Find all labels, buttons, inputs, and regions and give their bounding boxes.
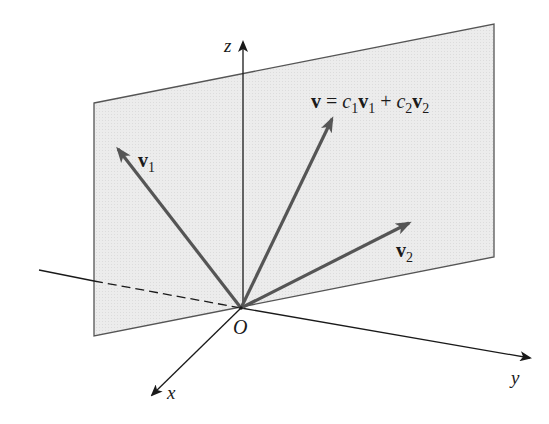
v1-symbol: v xyxy=(138,149,148,171)
v2-term-symbol: v xyxy=(412,90,422,112)
v1-label: v1 xyxy=(138,150,155,170)
c1-symbol: c xyxy=(342,90,351,112)
origin-point xyxy=(239,306,243,310)
y-axis-negative-solid xyxy=(39,270,94,281)
x-axis-label: x xyxy=(167,383,175,402)
c2-subscript: 2 xyxy=(405,101,412,116)
c1-subscript: 1 xyxy=(351,101,358,116)
v1-term-symbol: v xyxy=(358,90,368,112)
v1-term-subscript: 1 xyxy=(368,101,375,116)
v2-symbol: v xyxy=(396,239,406,261)
plus-sign: + xyxy=(380,90,391,112)
v-symbol: v xyxy=(311,90,321,112)
origin-label: O xyxy=(233,317,247,337)
span-plane xyxy=(94,24,494,336)
v2-subscript: 2 xyxy=(406,250,413,265)
v2-term-subscript: 2 xyxy=(422,101,429,116)
equals-sign: = xyxy=(326,90,337,112)
z-axis-label: z xyxy=(224,36,231,55)
y-axis xyxy=(241,308,530,358)
linear-combination-label: v = c1v1 + c2v2 xyxy=(311,91,429,111)
diagram-canvas: z y x O v1 v2 v = c1v1 + c2v2 xyxy=(0,0,549,424)
c2-symbol: c xyxy=(396,90,405,112)
diagram-graphics xyxy=(0,0,549,424)
y-axis-label: y xyxy=(511,368,519,387)
v1-subscript: 1 xyxy=(148,160,155,175)
v2-label: v2 xyxy=(396,240,413,260)
